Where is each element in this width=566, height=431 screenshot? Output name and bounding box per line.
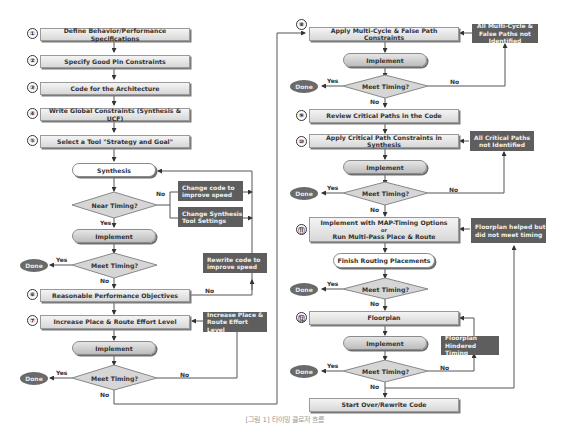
- no-label: No: [370, 383, 379, 390]
- no-label: No: [100, 277, 109, 284]
- rewrite-code-box: Rewrite code to improve speed: [203, 253, 267, 273]
- done-terminal: Done: [20, 259, 48, 272]
- step-map-timing: Implement with MAP-Timing Options or Run…: [309, 217, 459, 242]
- step-number: ①: [27, 28, 38, 39]
- step-code-architecture: Code for the Architecture: [40, 82, 190, 95]
- step-number: ③: [27, 82, 38, 93]
- done-terminal: Done: [290, 80, 318, 93]
- all-multicycle-box: All Multi-Cycle & False Paths not Identi…: [472, 24, 538, 43]
- no-label: No: [440, 364, 449, 371]
- step-performance-objectives: Reasonable Performance Objectives: [40, 289, 190, 302]
- no-label: No: [370, 98, 379, 105]
- no-label: No: [449, 186, 458, 193]
- flowchart: ① Define Behavior/Performance Specificat…: [0, 0, 566, 431]
- step-number: ⑦: [27, 315, 38, 326]
- no-label: No: [370, 206, 379, 213]
- meet-timing-decision: Meet Timing?: [343, 187, 428, 199]
- step-start-over: Start Over/Rewrite Code: [309, 398, 459, 412]
- step-map-timing-line1: Implement with MAP-Timing Options: [320, 219, 447, 226]
- done-terminal: Done: [290, 283, 318, 296]
- yes-label: Yes: [327, 280, 338, 287]
- no-label: No: [205, 287, 214, 294]
- yes-label: Yes: [327, 77, 338, 84]
- done-terminal: Done: [20, 372, 48, 385]
- floorplan-hindered-box: Floorplan Hindered Timing: [441, 336, 499, 355]
- finish-routing-node: Finish Routing Placements: [333, 253, 435, 268]
- step-select-tool: Select a Tool "Strategy and Goal": [40, 135, 190, 148]
- yes-label: Yes: [327, 362, 338, 369]
- meet-timing-decision: Meet Timing?: [72, 372, 157, 384]
- near-timing-decision: Near Timing?: [72, 199, 157, 211]
- meet-timing-decision: Meet Timing?: [343, 283, 428, 295]
- done-terminal: Done: [290, 187, 318, 200]
- no-label: No: [180, 371, 189, 378]
- no-label: No: [156, 190, 165, 197]
- meet-timing-decision: Meet Timing?: [343, 80, 428, 92]
- step-number: ⑩: [296, 136, 307, 147]
- yes-label: Yes: [100, 219, 111, 226]
- implement-node: Implement: [343, 53, 427, 67]
- step-number: ②: [27, 55, 38, 66]
- no-label: No: [100, 391, 109, 398]
- step-floorplan: Floorplan: [309, 311, 459, 325]
- step-multicycle-constraints: Apply Multi-Cycle & False Path Constrain…: [309, 27, 459, 41]
- meet-timing-decision: Meet Timing?: [343, 365, 428, 377]
- no-label: No: [370, 300, 379, 307]
- step-number: ⑨: [296, 110, 307, 121]
- step-critical-constraints: Apply Critical Path Constraints in Synth…: [309, 134, 459, 148]
- step-number: ⑫: [296, 312, 307, 323]
- step-number: ⑪: [296, 224, 307, 235]
- synthesis-node: Synthesis: [72, 163, 156, 177]
- step-number: ⑥: [27, 289, 38, 300]
- step-number: ④: [27, 108, 38, 119]
- implement-node: Implement: [72, 229, 156, 243]
- all-critical-box: All Critical Paths not Identified: [470, 131, 534, 151]
- step-increase-effort: Increase Place & Route Effort Level: [40, 315, 190, 329]
- implement-node: Implement: [343, 336, 427, 350]
- yes-label: Yes: [327, 184, 338, 191]
- done-terminal: Done: [290, 365, 318, 378]
- meet-timing-decision: Meet Timing?: [72, 259, 157, 271]
- implement-node: Implement: [72, 341, 156, 355]
- yes-label: Yes: [56, 369, 67, 376]
- implement-node: Implement: [343, 160, 427, 174]
- step-pin-constraints: Specify Good Pin Constraints: [40, 55, 190, 68]
- change-code-box: Change code to improve speed: [178, 181, 243, 201]
- floorplan-helped-box: Floorplan helped but did not meet timing: [471, 218, 546, 243]
- step-map-timing-line3: Run Multi-Pass Place & Route: [332, 233, 435, 240]
- yes-label: Yes: [56, 256, 67, 263]
- step-number: ⑤: [27, 135, 38, 146]
- no-label: No: [450, 78, 459, 85]
- step-review-critical: Review Critical Paths in the Code: [309, 109, 459, 123]
- step-define-spec: Define Behavior/Performance Specificatio…: [40, 28, 190, 41]
- change-synth-box: Change Synthesis Tool Settings: [178, 207, 243, 227]
- figure-caption: [그림 1] 타이밍 클로저 흐름: [200, 414, 370, 424]
- step-number: ⑧: [296, 19, 307, 30]
- increase-pr-box: Increase Place & Route Effort Level: [203, 312, 267, 332]
- step-global-constraints: Write Global Constraints (Synthesis & UC…: [40, 108, 190, 121]
